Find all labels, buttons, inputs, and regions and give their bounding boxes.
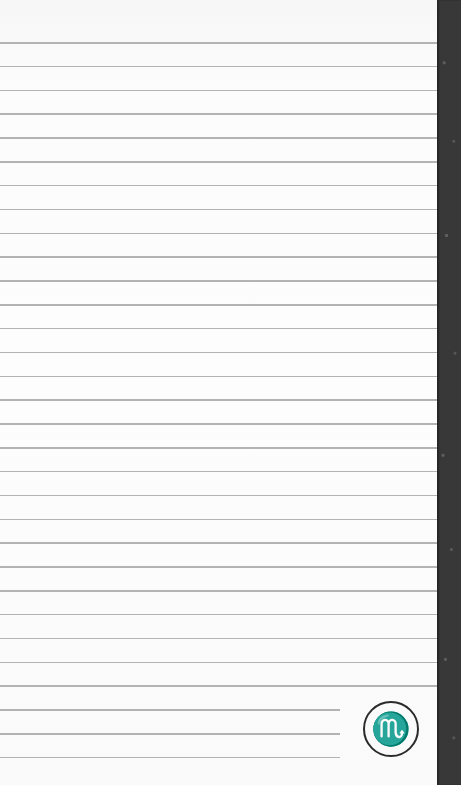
ruled-line	[0, 471, 437, 473]
ruled-line	[0, 399, 437, 401]
ruled-line	[0, 519, 437, 521]
ruled-line	[0, 709, 340, 711]
ruled-line	[0, 495, 437, 497]
ruled-line	[0, 685, 437, 687]
ruled-line	[0, 304, 437, 306]
scorpio-zodiac-icon: ♏	[363, 701, 419, 757]
ruled-line	[0, 590, 437, 592]
ruled-line	[0, 233, 437, 235]
ruled-line	[0, 662, 437, 664]
ruled-line	[0, 90, 437, 92]
ruled-line	[0, 423, 437, 425]
ruled-line	[0, 638, 437, 640]
ruled-line	[0, 209, 437, 211]
ruled-line	[0, 328, 437, 330]
ruled-line	[0, 66, 437, 68]
ruled-line	[0, 733, 340, 735]
ruled-line	[0, 757, 340, 759]
ruled-line	[0, 542, 437, 544]
ruled-line	[0, 185, 437, 187]
binding-edge	[437, 0, 461, 785]
zodiac-symbol: ♏	[371, 713, 411, 745]
ruled-line	[0, 566, 437, 568]
ruled-line	[0, 352, 437, 354]
ruled-line	[0, 280, 437, 282]
ruled-line	[0, 42, 437, 44]
ruled-line	[0, 113, 437, 115]
notepad-page	[0, 0, 437, 785]
ruled-line	[0, 161, 437, 163]
ruled-line	[0, 256, 437, 258]
ruled-line	[0, 447, 437, 449]
ruled-line	[0, 376, 437, 378]
ruled-line	[0, 614, 437, 616]
ruled-line	[0, 137, 437, 139]
